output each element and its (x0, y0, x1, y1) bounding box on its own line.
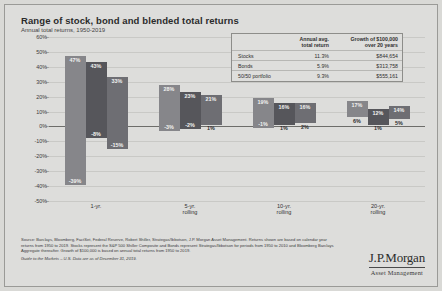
y-tick-label: 30% (21, 79, 47, 85)
legend-row: 50/50 portfolio9.3%$555,161 (232, 71, 402, 81)
x-axis-category-label: 5-yr.rolling (143, 203, 237, 216)
legend-row: Bonds5.9%$313,758 (232, 61, 402, 71)
bar-min-label: 2% (295, 124, 316, 130)
bar-min-label: 1% (201, 125, 222, 131)
bar-min-label: -1% (253, 121, 274, 127)
legend-row-avg: 5.9% (287, 61, 333, 71)
footnote-source: Source: Barclays, Bloomberg, FactSet, Fe… (21, 237, 248, 242)
y-tick-label: 10% (21, 109, 47, 115)
bar-min-label: 1% (274, 125, 295, 131)
logo-tagline: Asset Management (369, 269, 425, 276)
page-title: Range of stock, bond and blended total r… (21, 15, 239, 26)
legend-header-row: Annual avg. total return Growth of $100,… (232, 34, 402, 51)
x-label-line1: 5-yr. (185, 203, 196, 209)
x-label-line1: 10-yr. (277, 203, 291, 209)
legend-row-growth: $313,758 (333, 61, 402, 71)
bar-max-label: 43% (86, 63, 107, 69)
legend-row-growth: $844,654 (333, 51, 402, 61)
y-tick-label: 40% (21, 64, 47, 70)
legend-row-avg: 11.3% (287, 51, 333, 61)
jpmorgan-logo: J.P.Morgan Asset Management (369, 250, 425, 277)
range-bar (65, 56, 86, 184)
x-label-line1: 20-yr. (371, 203, 385, 209)
bar-min-label: -2% (180, 122, 201, 128)
bar-max-label: 17% (347, 102, 368, 108)
y-tick-label: -40% (21, 183, 47, 189)
bar-min-label: -15% (107, 142, 128, 148)
y-tick-label: -50% (21, 198, 47, 204)
bar-max-label: 21% (201, 96, 222, 102)
summary-legend-table: Annual avg. total return Growth of $100,… (231, 33, 403, 82)
legend-row-name: Bonds (232, 61, 287, 71)
legend-row-avg: 9.3% (287, 71, 333, 81)
y-tick-label: -20% (21, 153, 47, 159)
x-axis-category-label: 20-yr.rolling (331, 203, 425, 216)
bar-max-label: 16% (274, 104, 295, 110)
legend-row: Stocks11.3%$844,654 (232, 51, 402, 61)
legend-table: Annual avg. total return Growth of $100,… (232, 34, 402, 81)
grid-line (49, 201, 425, 202)
x-label-line2: rolling (183, 209, 198, 215)
legend-header-growth: Growth of $100,000 over 20 years (333, 34, 402, 51)
bar-min-label: -8% (86, 131, 107, 137)
x-label-line2: rolling (277, 209, 292, 215)
legend-header-blank (232, 34, 287, 51)
x-label-line1: 1-yr. (91, 203, 102, 209)
bar-max-label: 47% (65, 57, 86, 63)
y-tick-label: -10% (21, 138, 47, 144)
bar-min-label: 6% (347, 118, 368, 124)
bar-max-label: 23% (180, 93, 201, 99)
bar-max-label: 16% (295, 104, 316, 110)
legend-body: Stocks11.3%$844,654Bonds5.9%$313,75850/5… (232, 51, 402, 81)
bar-min-label: 1% (368, 125, 389, 131)
bar-max-label: 33% (107, 78, 128, 84)
y-tick-label: 60% (21, 34, 47, 40)
bar-min-label: -3% (159, 124, 180, 130)
y-tick-label: 50% (21, 49, 47, 55)
range-bar (107, 77, 128, 149)
slide-canvas: Range of stock, bond and blended total r… (4, 4, 438, 287)
legend-header-growth-line2: over 20 years (365, 42, 398, 48)
x-label-line2: rolling (371, 209, 386, 215)
legend-row-growth: $555,161 (333, 71, 402, 81)
footnote-guide: Guide to the Markets – U.S. Data are as … (21, 256, 337, 262)
y-tick-label: 0% (21, 123, 47, 129)
bar-max-label: 14% (389, 107, 410, 113)
y-tick-label: 20% (21, 94, 47, 100)
grid-line (49, 171, 425, 172)
grid-line (49, 156, 425, 157)
range-bar (86, 62, 107, 138)
logo-brand: J.P.Morgan (369, 250, 425, 268)
y-tick-label: -30% (21, 168, 47, 174)
legend-header-avg-line2: total return (302, 42, 329, 48)
legend-row-name: 50/50 portfolio (232, 71, 287, 81)
bar-max-label: 28% (159, 86, 180, 92)
bar-max-label: 19% (253, 99, 274, 105)
bar-min-label: 5% (389, 120, 410, 126)
footnote-block: Source: Barclays, Bloomberg, FactSet, Fe… (21, 237, 337, 261)
bar-min-label: -39% (65, 178, 86, 184)
grid-line (49, 186, 425, 187)
x-axis-category-label: 1-yr. (49, 203, 143, 209)
legend-header-avg-return: Annual avg. total return (287, 34, 333, 51)
grid-line (49, 141, 425, 142)
legend-row-name: Stocks (232, 51, 287, 61)
x-axis-category-label: 10-yr.rolling (237, 203, 331, 216)
bar-max-label: 12% (368, 110, 389, 116)
